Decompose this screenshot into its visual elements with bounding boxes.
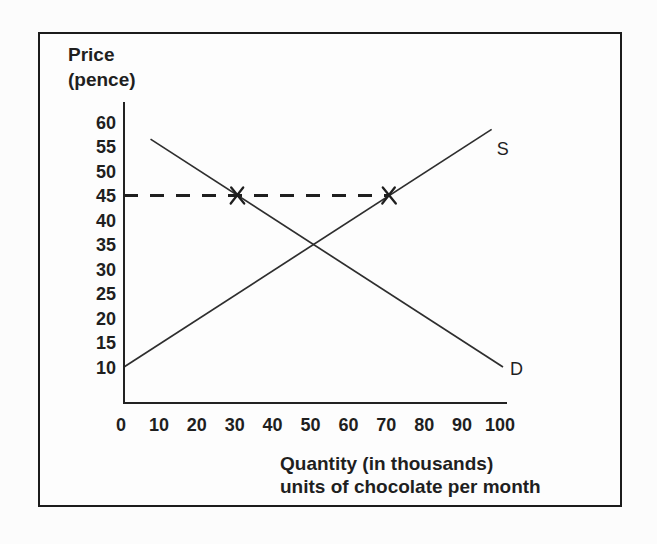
x-tick-label: 70: [376, 415, 396, 435]
x-tick-label: 30: [225, 415, 245, 435]
x-axis-title-line2: units of chocolate per month: [280, 475, 541, 498]
y-tick-label: 15: [96, 333, 116, 353]
x-tick-label: 40: [263, 415, 283, 435]
x-tick-label: 60: [338, 415, 358, 435]
x-tick-label: 100: [485, 415, 515, 435]
y-tick-label: 20: [96, 309, 116, 329]
x-tick-label: 80: [414, 415, 434, 435]
x-tick-label: 20: [187, 415, 207, 435]
x-tick-label: 0: [116, 415, 126, 435]
x-axis-title-line1: Quantity (in thousands): [280, 452, 541, 475]
y-tick-label: 40: [96, 211, 116, 231]
supply-demand-chart: SD60555045403530252015100102030405060708…: [40, 34, 620, 505]
x-tick-label: 50: [300, 415, 320, 435]
y-tick-label: 25: [96, 284, 116, 304]
x-axis-title: Quantity (in thousands) units of chocola…: [280, 452, 541, 498]
y-tick-label: 45: [96, 186, 116, 206]
y-tick-label: 30: [96, 260, 116, 280]
supply-label: S: [497, 139, 509, 159]
axes-lines: [124, 102, 507, 403]
y-tick-label: 35: [96, 235, 116, 255]
supply-line: [124, 129, 492, 367]
figure-frame: Price (pence) SD605550454035302520151001…: [38, 32, 622, 507]
y-tick-label: 50: [96, 162, 116, 182]
demand-line: [151, 139, 503, 367]
demand-label: D: [510, 359, 523, 379]
y-tick-label: 60: [96, 113, 116, 133]
y-tick-label: 10: [96, 358, 116, 378]
y-tick-label: 55: [96, 137, 116, 157]
x-tick-label: 90: [452, 415, 472, 435]
x-tick-label: 10: [149, 415, 169, 435]
scanned-textbook-figure: Price (pence) SD605550454035302520151001…: [0, 0, 657, 544]
